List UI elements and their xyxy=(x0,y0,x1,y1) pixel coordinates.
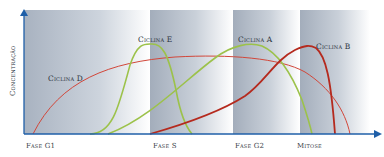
label-ciclina-e: Ciclina E xyxy=(138,35,172,44)
x-axis-arrow-icon xyxy=(374,130,382,138)
x-label-mitose: Mitose xyxy=(297,142,322,150)
y-axis-label: Concentração xyxy=(9,46,17,96)
label-ciclina-a: Ciclina A xyxy=(238,35,273,44)
x-label-fase-g2: Fase G2 xyxy=(235,142,264,150)
label-ciclina-d: Ciclina D xyxy=(48,74,83,83)
band-g2 xyxy=(233,10,300,134)
label-ciclina-b: Ciclina B xyxy=(316,42,351,51)
band-g1 xyxy=(24,10,150,134)
x-label-fase-s: Fase S xyxy=(153,142,177,150)
band-s xyxy=(150,10,233,134)
cyclin-concentration-diagram: Concentração Ciclina D Ciclina E Ciclina… xyxy=(0,0,384,157)
x-label-fase-g1: Fase G1 xyxy=(26,142,55,150)
band-mitose xyxy=(300,10,370,134)
